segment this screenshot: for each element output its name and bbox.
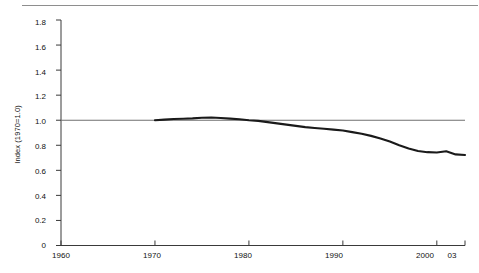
axis-layer (61, 20, 465, 246)
plot-area (0, 0, 479, 273)
y-tick-marks (56, 20, 61, 246)
x-tick-marks (61, 241, 465, 246)
chart-figure: Index (1970=1.0) 0 0.2 0.4 0.6 0.8 1.0 1… (0, 0, 479, 273)
data-series-line (155, 117, 465, 155)
